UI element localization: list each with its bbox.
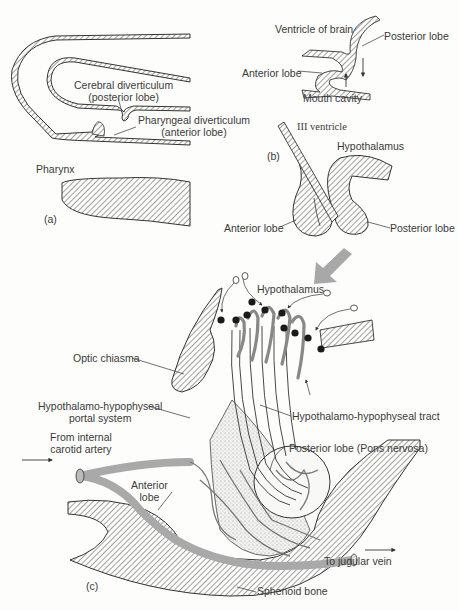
panel-b-tag: (b) <box>267 150 280 162</box>
label-line: (anterior lobe) <box>138 126 250 138</box>
label-line: Anterior <box>131 479 168 491</box>
label-cerebral-diverticulum: Cerebral diverticulum (posterior lobe) <box>74 79 173 103</box>
label-pharyngeal-diverticulum: Pharyngeal diverticulum (anterior lobe) <box>138 114 250 138</box>
label-pharynx: Pharynx <box>36 163 75 175</box>
label-line: Hypothalamo-hypophyseal <box>38 400 162 412</box>
label-posterior-lobe-lower: Posterior lobe <box>390 222 455 234</box>
label-posterior-lobe-c: Posterior lobe (Pons nervosa) <box>289 442 428 454</box>
label-mouth-cavity: Mouth cavity <box>303 92 362 104</box>
label-line: lobe <box>131 491 168 503</box>
label-jugular-vein: To jugular vein <box>324 555 392 567</box>
panel-a-tag: (a) <box>44 213 57 225</box>
label-tract: Hypothalamo-hypophyseal tract <box>292 410 440 422</box>
label-anterior-lobe-c: Anterior lobe <box>131 479 168 503</box>
label-sphenoid-bone: Sphenoid bone <box>257 585 328 597</box>
label-line: portal system <box>38 412 162 424</box>
label-line: Pharyngeal diverticulum <box>138 114 250 126</box>
label-optic-chiasma: Optic chiasma <box>73 352 140 364</box>
label-hypothalamus-c: Hypothalamus <box>257 283 324 295</box>
label-portal-system: Hypothalamo-hypophyseal portal system <box>38 400 162 424</box>
label-anterior-lobe-upper: Anterior lobe <box>242 67 302 79</box>
pituitary-development-figure: Cerebral diverticulum (posterior lobe) P… <box>0 0 459 611</box>
label-line: (posterior lobe) <box>74 91 173 103</box>
label-line: Cerebral diverticulum <box>74 79 173 91</box>
label-carotid-artery: From internal carotid artery <box>50 431 112 455</box>
label-ventricle-of-brain: Ventricle of brain <box>275 23 353 35</box>
figure-artwork <box>0 0 459 611</box>
label-anterior-lobe-lower: Anterior lobe <box>224 222 284 234</box>
label-line: carotid artery <box>50 443 112 455</box>
label-line: From internal <box>50 431 112 443</box>
label-iii-ventricle: III ventricle <box>297 121 347 133</box>
transition-arrow-icon <box>314 248 352 284</box>
label-posterior-lobe-upper: Posterior lobe <box>384 30 449 42</box>
label-hypothalamus-b: Hypothalamus <box>337 140 404 152</box>
panel-c-tag: (c) <box>86 580 98 592</box>
